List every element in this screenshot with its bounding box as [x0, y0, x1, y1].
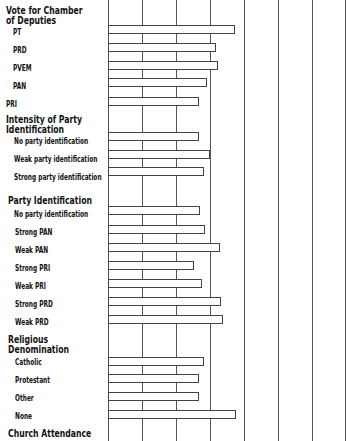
category-label: Weak PAN — [15, 245, 48, 255]
bar-pvem — [108, 61, 218, 70]
category-label: Protestant — [15, 375, 50, 385]
category-label: No party identification — [14, 136, 88, 146]
bar-pid-strong-prd — [108, 297, 221, 306]
category-label: Weak party identification — [14, 154, 97, 164]
gridline — [312, 0, 313, 441]
group-heading: of Deputies — [6, 16, 56, 26]
category-label: PAN — [13, 81, 26, 91]
category-label: PRD — [13, 45, 27, 55]
category-label: Strong PRD — [15, 299, 53, 309]
gridline — [244, 0, 245, 441]
category-label: Strong party identification — [14, 172, 102, 182]
gridline — [278, 0, 279, 441]
bar-pid-strong-pan — [108, 225, 205, 234]
category-label: Strong PRI — [15, 263, 50, 273]
group-heading: Denomination — [8, 345, 69, 355]
bar-pid-none — [108, 206, 200, 215]
group-heading: Party Identification — [8, 196, 92, 206]
bar-pid-weak-prd — [108, 315, 223, 324]
bar-prd — [108, 43, 216, 52]
category-label: Strong PAN — [15, 227, 52, 237]
bar-pri — [108, 97, 199, 106]
bar-pid-weak-pan — [108, 243, 220, 252]
category-label: No party identification — [14, 209, 88, 219]
group-heading: Identification — [6, 125, 64, 135]
bar-rel-other — [108, 392, 199, 401]
bar-int-strong — [108, 167, 204, 176]
bar-pid-weak-pri — [108, 279, 202, 288]
bar-rel-protestant — [108, 374, 199, 383]
bar-rel-catholic — [108, 357, 204, 366]
bar-pid-strong-pri — [108, 261, 194, 270]
category-label: Weak PRD — [15, 317, 49, 327]
bar-rel-none — [108, 410, 236, 419]
category-label: None — [15, 411, 32, 421]
category-label: PVEM — [13, 63, 32, 73]
category-label: PT — [13, 27, 21, 37]
category-label: PRI — [6, 99, 17, 109]
category-label: Other — [15, 393, 34, 403]
group-heading: Church Attendance — [8, 429, 91, 439]
bar-pan — [108, 78, 207, 87]
category-label: Catholic — [15, 357, 42, 367]
category-label: Weak PRI — [15, 281, 46, 291]
bar-int-none — [108, 132, 199, 141]
bar-int-weak — [108, 150, 210, 159]
bar-pt — [108, 25, 235, 34]
